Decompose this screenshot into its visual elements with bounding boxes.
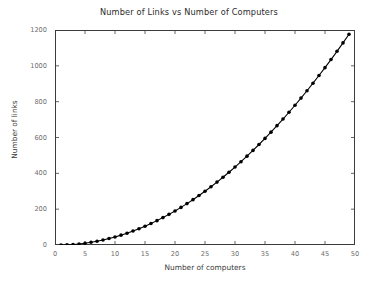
- chart-title: Number of Links vs Number of Computers: [0, 7, 378, 17]
- data-point-marker: [107, 237, 111, 241]
- data-point-marker: [269, 130, 273, 134]
- data-point-marker: [335, 50, 339, 54]
- y-tick-label: 400: [0, 169, 47, 177]
- data-point-marker: [281, 117, 285, 121]
- x-tick-label: 45: [321, 250, 329, 258]
- data-point-marker: [149, 222, 153, 226]
- data-point-marker: [275, 124, 279, 128]
- data-point-marker: [227, 170, 231, 174]
- data-point-marker: [215, 180, 219, 184]
- y-tick-label: 200: [0, 205, 47, 213]
- y-axis-label: Number of links: [10, 80, 19, 180]
- x-tick-label: 0: [53, 250, 57, 258]
- data-point-marker: [293, 103, 297, 107]
- data-markers: [59, 33, 351, 246]
- x-tick-label: 20: [171, 250, 179, 258]
- data-point-marker: [173, 209, 177, 213]
- data-point-marker: [167, 213, 171, 217]
- x-tick-label: 30: [231, 250, 239, 258]
- data-point-marker: [179, 206, 183, 210]
- data-point-marker: [347, 33, 351, 37]
- data-point-marker: [101, 238, 105, 242]
- x-tick-label: 35: [261, 250, 269, 258]
- data-point-marker: [83, 241, 87, 245]
- data-point-marker: [143, 224, 147, 228]
- y-tick-label: 800: [0, 98, 47, 106]
- data-point-marker: [113, 235, 117, 239]
- data-point-marker: [257, 143, 261, 147]
- data-point-marker: [323, 66, 327, 70]
- data-point-marker: [329, 58, 333, 62]
- data-point-marker: [239, 160, 243, 164]
- data-point-marker: [191, 198, 195, 202]
- data-point-marker: [95, 239, 99, 243]
- y-tick-label: 1000: [0, 62, 47, 70]
- data-point-marker: [131, 229, 135, 233]
- data-point-marker: [221, 175, 225, 179]
- data-point-marker: [125, 231, 129, 235]
- data-point-marker: [197, 194, 201, 198]
- data-point-marker: [311, 81, 315, 85]
- x-tick-label: 5: [83, 250, 87, 258]
- data-point-marker: [341, 41, 345, 45]
- x-axis-label: Number of computers: [55, 263, 355, 272]
- data-point-marker: [251, 149, 255, 153]
- data-point-marker: [209, 185, 213, 189]
- y-tick-label: 0: [0, 241, 47, 249]
- x-tick-label: 40: [291, 250, 299, 258]
- data-point-marker: [317, 74, 321, 78]
- x-tick-label: 25: [201, 250, 209, 258]
- plot-svg: [55, 30, 355, 245]
- data-line: [61, 34, 349, 245]
- chart-figure: Number of Links vs Number of Computers 0…: [0, 0, 378, 288]
- data-point-marker: [203, 189, 207, 193]
- y-tick-label: 1200: [0, 26, 47, 34]
- data-point-marker: [287, 110, 291, 114]
- x-tick-label: 10: [111, 250, 119, 258]
- x-tick-label: 50: [351, 250, 359, 258]
- x-tick-label: 15: [141, 250, 149, 258]
- data-point-marker: [299, 96, 303, 100]
- data-point-marker: [137, 227, 141, 231]
- data-point-marker: [305, 89, 309, 93]
- data-point-marker: [161, 216, 165, 220]
- data-point-marker: [59, 243, 63, 245]
- data-point-marker: [65, 243, 69, 245]
- tick-marks: [55, 30, 355, 245]
- data-point-marker: [263, 137, 267, 141]
- data-point-marker: [71, 243, 75, 245]
- data-point-marker: [245, 154, 249, 158]
- data-point-marker: [233, 165, 237, 169]
- data-point-marker: [119, 233, 123, 237]
- plot-area: [55, 30, 355, 245]
- data-point-marker: [89, 241, 93, 245]
- data-point-marker: [185, 202, 189, 206]
- y-tick-label: 600: [0, 134, 47, 142]
- data-point-marker: [77, 242, 81, 245]
- data-point-marker: [155, 219, 159, 223]
